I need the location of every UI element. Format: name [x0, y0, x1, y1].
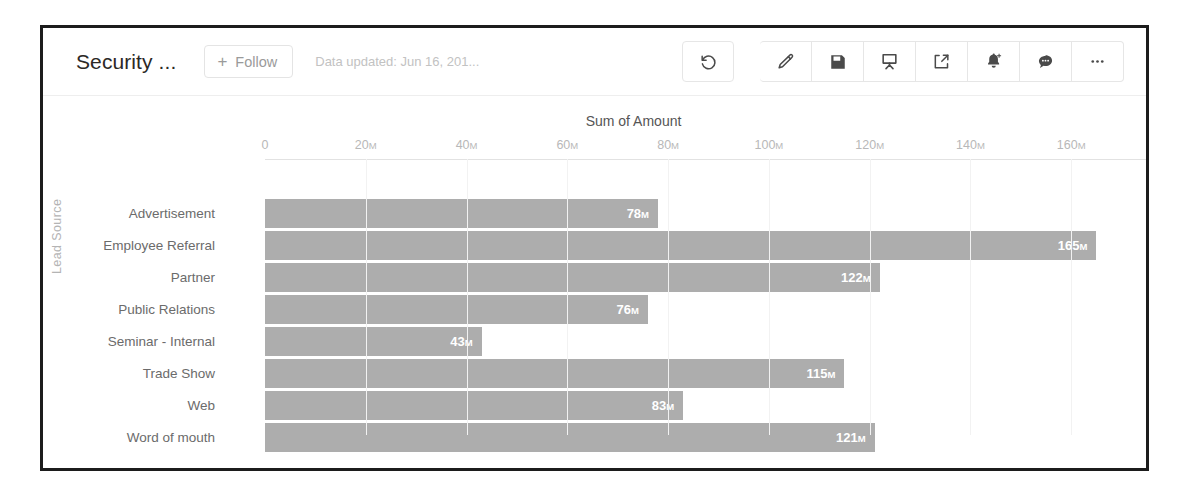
x-tick-label: 140M: [956, 138, 985, 152]
gridline: [366, 159, 367, 435]
bar-row: Trade Show115M: [43, 359, 1146, 388]
page-title: Security ...: [76, 50, 176, 74]
x-axis-ticks: 020M40M60M80M100M120M140M160M180M: [43, 138, 1146, 158]
category-label: Trade Show: [43, 359, 215, 388]
bar-value-label: 76M: [617, 302, 648, 317]
category-label: Employee Referral: [43, 231, 215, 260]
refresh-icon: [699, 52, 718, 71]
bar-chart: Sum of Amount Lead Source 020M40M60M80M1…: [43, 96, 1146, 468]
category-label: Seminar - Internal: [43, 327, 215, 356]
more-ellipsis-icon: [1088, 52, 1107, 71]
follow-button[interactable]: + Follow: [204, 45, 293, 78]
dashboard-card-inner: Security ... + Follow Data updated: Jun …: [43, 28, 1146, 468]
x-tick-label: 160M: [1057, 138, 1086, 152]
bar[interactable]: 115M: [265, 359, 844, 388]
gridline: [467, 159, 468, 435]
bar-value-label: 78M: [627, 206, 658, 221]
x-tick-label: 60M: [556, 138, 578, 152]
bar-value-label: 165M: [1058, 238, 1097, 253]
x-tick-label: 20M: [355, 138, 377, 152]
data-updated-text: Data updated: Jun 16, 201...: [315, 54, 479, 69]
gridline: [870, 159, 871, 435]
bar[interactable]: 43M: [265, 327, 482, 356]
share-icon: [932, 52, 951, 71]
edit-button[interactable]: [760, 41, 812, 82]
category-label: Web: [43, 391, 215, 420]
chat-bubble-icon: [1036, 52, 1055, 71]
save-button[interactable]: [812, 41, 864, 82]
category-label: Public Relations: [43, 295, 215, 324]
plot-area: Advertisement78MEmployee Referral165MPar…: [43, 160, 1146, 468]
gridline: [668, 159, 669, 435]
bar-value-label: 122M: [841, 270, 880, 285]
bell-plus-icon: [984, 52, 1003, 71]
bar-row: Seminar - Internal43M: [43, 327, 1146, 356]
bar[interactable]: 122M: [265, 263, 880, 292]
bar[interactable]: 83M: [265, 391, 683, 420]
bar[interactable]: 165M: [265, 231, 1096, 260]
share-button[interactable]: [916, 41, 968, 82]
x-tick-label: 80M: [657, 138, 679, 152]
bar-value-label: 115M: [807, 366, 845, 381]
dashboard-header: Security ... + Follow Data updated: Jun …: [43, 28, 1146, 96]
gridline: [970, 159, 971, 435]
dashboard-toolbar: [682, 41, 1124, 82]
bar[interactable]: 121M: [265, 423, 875, 452]
x-tick-label: 0: [262, 138, 269, 152]
x-tick-label: 40M: [456, 138, 478, 152]
x-tick-label: 100M: [754, 138, 783, 152]
follow-button-label: Follow: [235, 54, 277, 70]
plus-icon: +: [217, 53, 227, 70]
x-tick-label: 120M: [855, 138, 884, 152]
present-button[interactable]: [864, 41, 916, 82]
bar[interactable]: 78M: [265, 199, 658, 228]
gridline: [769, 159, 770, 435]
chart-measure-title: Sum of Amount: [43, 113, 1146, 129]
save-floppy-icon: [829, 53, 847, 71]
bar-row: Public Relations76M: [43, 295, 1146, 324]
edit-pencil-icon: [776, 52, 795, 71]
category-label: Word of mouth: [43, 423, 215, 452]
gridline: [1071, 159, 1072, 435]
category-label: Advertisement: [43, 199, 215, 228]
category-label: Partner: [43, 263, 215, 292]
dashboard-card: Security ... + Follow Data updated: Jun …: [40, 25, 1149, 471]
gridline: [567, 159, 568, 435]
bar-row: Word of mouth121M: [43, 423, 1146, 452]
bar-row: Partner122M: [43, 263, 1146, 292]
subscribe-button[interactable]: [968, 41, 1020, 82]
bar[interactable]: 76M: [265, 295, 648, 324]
more-button[interactable]: [1072, 41, 1124, 82]
bar-row: Web83M: [43, 391, 1146, 420]
bar-row: Employee Referral165M: [43, 231, 1146, 260]
comments-button[interactable]: [1020, 41, 1072, 82]
refresh-icon-button[interactable]: [682, 41, 734, 82]
bar-row: Advertisement78M: [43, 199, 1146, 228]
presentation-icon: [880, 52, 899, 71]
